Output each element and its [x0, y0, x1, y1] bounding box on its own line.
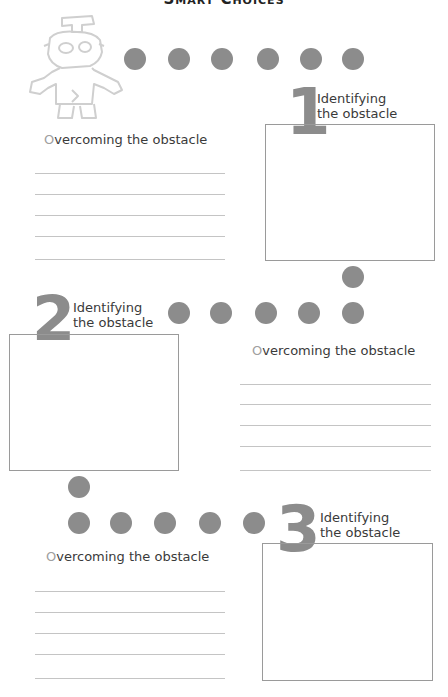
connector-dot	[211, 48, 233, 70]
identify-label-line2: the obstacle	[73, 315, 153, 330]
answer-line-3-3[interactable]	[35, 633, 225, 634]
answer-line-1-4[interactable]	[35, 236, 225, 237]
answer-line-2-1[interactable]	[240, 384, 431, 385]
connector-dot	[168, 302, 190, 324]
connector-dot	[210, 302, 232, 324]
answer-line-1-1[interactable]	[35, 173, 225, 174]
answer-line-2-4[interactable]	[240, 446, 431, 447]
identify-label-line2: the obstacle	[317, 106, 397, 121]
connector-dot	[68, 512, 90, 534]
overcome-text: vercoming the obstacle	[54, 132, 207, 147]
identify-label-1: Identifying the obstacle	[317, 91, 397, 121]
answer-line-1-2[interactable]	[35, 194, 225, 195]
identify-box-2[interactable]	[9, 334, 179, 471]
connector-dot	[124, 48, 146, 70]
connector-dot	[243, 512, 265, 534]
answer-line-3-5[interactable]	[35, 678, 225, 679]
overcome-initial: O	[46, 549, 56, 564]
connector-dot	[199, 512, 221, 534]
answer-line-2-3[interactable]	[240, 425, 431, 426]
answer-line-2-5[interactable]	[240, 470, 431, 471]
page-title: Smart Choices	[0, 0, 448, 8]
connector-dot	[257, 48, 279, 70]
overcome-label-3: Overcoming the obstacle	[46, 549, 209, 564]
connector-dot	[255, 302, 277, 324]
connector-dot	[110, 512, 132, 534]
answer-line-1-3[interactable]	[35, 215, 225, 216]
connector-dot	[342, 302, 364, 324]
overcome-initial: O	[252, 343, 262, 358]
robot-outline-icon	[22, 12, 132, 120]
identify-box-3[interactable]	[262, 543, 433, 681]
connector-dot	[168, 48, 190, 70]
answer-line-3-1[interactable]	[35, 591, 225, 592]
identify-label-line1: Identifying	[317, 91, 397, 106]
connector-dot	[342, 48, 364, 70]
overcome-label-1: Overcoming the obstacle	[44, 132, 207, 147]
answer-line-3-4[interactable]	[35, 654, 225, 655]
connector-dot	[342, 266, 364, 288]
overcome-text: vercoming the obstacle	[56, 549, 209, 564]
connector-dot	[154, 512, 176, 534]
identify-box-1[interactable]	[265, 124, 435, 261]
connector-dot	[68, 476, 90, 498]
identify-label-line1: Identifying	[320, 510, 400, 525]
overcome-label-2: Overcoming the obstacle	[252, 343, 415, 358]
identify-label-line2: the obstacle	[320, 525, 400, 540]
answer-line-2-2[interactable]	[240, 404, 431, 405]
identify-label-2: Identifying the obstacle	[73, 300, 153, 330]
answer-line-1-5[interactable]	[35, 259, 225, 260]
overcome-initial: O	[44, 132, 54, 147]
connector-dot	[300, 48, 322, 70]
overcome-text: vercoming the obstacle	[262, 343, 415, 358]
connector-dot	[298, 302, 320, 324]
identify-label-3: Identifying the obstacle	[320, 510, 400, 540]
answer-line-3-2[interactable]	[35, 612, 225, 613]
identify-label-line1: Identifying	[73, 300, 153, 315]
